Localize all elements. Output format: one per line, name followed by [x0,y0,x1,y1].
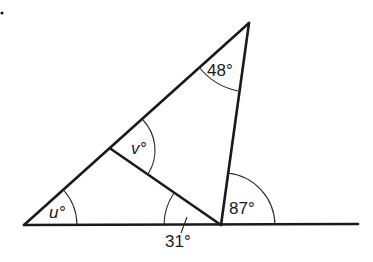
label-31: 31° [165,232,191,251]
side-top-to-bottom-right [221,23,249,225]
arc-u [64,190,78,225]
label-v: v° [131,139,147,158]
corner-dot [0,11,3,14]
inner-segment [111,149,221,225]
side-left-to-top [24,23,249,225]
baseline [24,224,358,225]
label-48: 48° [207,61,233,80]
arc-31 [164,193,174,225]
geometry-diagram: 48° v° u° 87° 31° [0,0,373,262]
label-87: 87° [229,199,255,218]
label-u: u° [49,203,65,222]
